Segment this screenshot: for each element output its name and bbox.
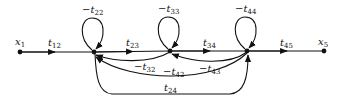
self-loop-t22 [82,18,103,50]
label-t34: t34 [203,37,216,50]
label-t44: −t44 [235,3,257,16]
node-x5 [322,49,327,54]
label-x1: x1 [15,36,25,49]
node-x3 [168,49,173,54]
edge-t43 [172,52,247,61]
arrow-t23 [94,52,133,53]
label-t22: −t22 [82,4,103,17]
label-t32: −t32 [134,61,155,74]
signal-flow-graph: x1 x5 t12 t23 t34 t45 −t22 −t33 −t44 −t3… [0,0,345,105]
label-t43: −t43 [199,63,220,76]
edge-t32 [96,52,170,61]
label-t24: t24 [164,82,177,95]
label-t12: t12 [48,37,61,50]
node-x2 [92,50,97,55]
node-x4 [245,49,250,54]
label-t45: t45 [280,37,293,50]
self-loop-t33 [158,17,179,49]
label-x5: x5 [318,36,328,49]
label-t42: −t42 [163,66,184,79]
self-loop-t44 [235,17,256,49]
label-t33: −t33 [158,3,179,16]
label-t23: t23 [126,37,139,50]
node-x1 [18,50,23,55]
